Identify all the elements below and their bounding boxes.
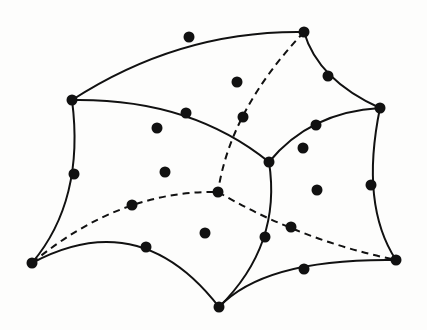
edge-j-q-hidden [32, 192, 218, 263]
edge-c-e [304, 32, 380, 108]
diagram-svg [0, 0, 427, 330]
node-f1-face-center [232, 77, 243, 88]
edges-layer [32, 32, 396, 307]
nodes-layer [27, 27, 402, 313]
node-c-vertex [299, 27, 310, 38]
node-q-hidden-vertex [213, 187, 224, 198]
node-l-vertex [214, 302, 225, 313]
node-i-edge-mid [69, 169, 80, 180]
edge-a-j [32, 100, 75, 263]
node-m-edge-mid [299, 264, 310, 275]
node-f4-face-center [298, 143, 309, 154]
node-b-edge-mid [184, 32, 195, 43]
node-p-edge-mid [260, 232, 271, 243]
node-s-hidden-edge-mid [127, 200, 138, 211]
node-g-vertex [264, 157, 275, 168]
edge-q-n-hidden [218, 192, 396, 260]
node-k-edge-mid [141, 242, 152, 253]
node-j-vertex [27, 258, 38, 269]
node-d-edge-mid [323, 71, 334, 82]
node-f6-face-center [200, 228, 211, 239]
node-f5-face-center [312, 185, 323, 196]
node-h-edge-mid [181, 108, 192, 119]
node-t-hidden-edge-mid [286, 222, 297, 233]
node-e-vertex [375, 103, 386, 114]
node-r-hidden-edge-mid [238, 112, 249, 123]
curved-hexahedron-diagram [0, 0, 427, 330]
edge-j-l [32, 242, 219, 307]
node-a-vertex [67, 95, 78, 106]
edge-e-g [269, 108, 380, 162]
node-n-vertex [391, 255, 402, 266]
node-f2-face-center [152, 123, 163, 134]
node-o-edge-mid [366, 180, 377, 191]
edge-c-q-hidden [218, 32, 304, 192]
node-f-edge-mid [311, 120, 322, 131]
node-f3-face-center [160, 167, 171, 178]
edge-a-g [72, 100, 269, 162]
